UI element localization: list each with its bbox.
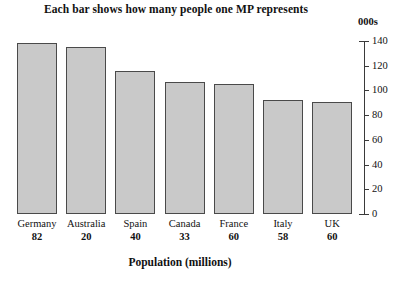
plot-area	[0, 41, 406, 214]
category-label-canada: Canada33	[158, 218, 212, 243]
bar-italy	[263, 100, 303, 214]
category-label-uk: UK60	[305, 218, 359, 243]
category-population-value: 60	[305, 230, 359, 243]
y-tick-0	[364, 214, 369, 215]
category-label-france: France60	[207, 218, 261, 243]
bar-australia	[66, 47, 106, 214]
category-label-germany: Germany82	[10, 218, 64, 243]
y-tick-20	[364, 189, 369, 190]
y-tick-label-140: 140	[372, 36, 388, 47]
bar-canada	[165, 82, 205, 214]
y-tick-label-20: 20	[372, 184, 383, 195]
category-name: UK	[305, 218, 359, 230]
y-tick-80	[364, 115, 369, 116]
y-tick-100	[364, 90, 369, 91]
category-label-italy: Italy58	[256, 218, 310, 243]
y-tick-label-80: 80	[372, 110, 383, 121]
category-population-value: 20	[59, 230, 113, 243]
category-name: Italy	[256, 218, 310, 230]
category-name: Germany	[10, 218, 64, 230]
category-label-australia: Australia20	[59, 218, 113, 243]
y-tick-label-120: 120	[372, 60, 388, 71]
y-tick-120	[364, 66, 369, 67]
category-population-value: 33	[158, 230, 212, 243]
y-tick-40	[364, 165, 369, 166]
chart-figure: Each bar shows how many people one MP re…	[0, 0, 406, 287]
category-population-value: 58	[256, 230, 310, 243]
y-tick-label-40: 40	[372, 159, 383, 170]
y-axis-units-label: 000s	[358, 16, 378, 27]
bar-france	[214, 84, 254, 214]
category-population-value: 60	[207, 230, 261, 243]
bar-spain	[115, 71, 155, 214]
y-tick-label-60: 60	[372, 135, 383, 146]
bar-germany	[17, 43, 57, 214]
category-name: Australia	[59, 218, 113, 230]
x-axis-title: Population (millions)	[0, 256, 360, 268]
category-name: Spain	[108, 218, 162, 230]
y-tick-140	[364, 41, 369, 42]
category-population-value: 40	[108, 230, 162, 243]
bar-uk	[312, 102, 352, 214]
y-tick-label-0: 0	[372, 209, 377, 220]
category-name: France	[207, 218, 261, 230]
y-tick-60	[364, 140, 369, 141]
category-name: Canada	[158, 218, 212, 230]
category-population-value: 82	[10, 230, 64, 243]
chart-title: Each bar shows how many people one MP re…	[0, 3, 352, 15]
category-label-spain: Spain40	[108, 218, 162, 243]
y-tick-label-100: 100	[372, 85, 388, 96]
